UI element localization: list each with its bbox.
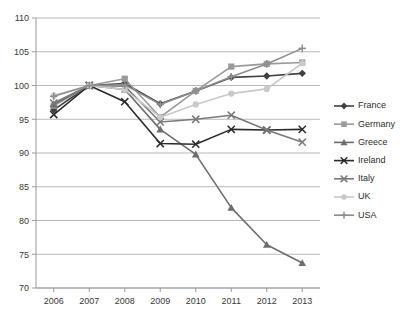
legend-item-uk[interactable]: UK: [334, 191, 371, 201]
series-greece: [50, 82, 306, 266]
marker-circle: [264, 86, 270, 92]
legend-label: Greece: [358, 137, 388, 147]
x-tick-label: 2011: [222, 296, 241, 306]
legend-label: USA: [358, 210, 377, 220]
legend-label: Italy: [358, 173, 375, 183]
marker-circle: [157, 114, 163, 120]
y-tick-label: 80: [19, 216, 29, 226]
series-group: [50, 45, 306, 266]
legend-label: France: [358, 100, 386, 110]
marker-plus: [341, 212, 348, 219]
legend-label: Germany: [358, 119, 396, 129]
marker-diamond: [299, 70, 306, 77]
y-tick-label: 95: [19, 115, 29, 125]
series-line: [54, 86, 303, 143]
y-tick-label: 85: [19, 182, 29, 192]
y-tick-label: 75: [19, 250, 29, 260]
marker-circle: [299, 60, 305, 66]
x-axis-group: 20062007200820092010201120122013: [36, 288, 320, 306]
y-axis-group: 707580859095100105110: [14, 13, 36, 293]
marker-square: [122, 76, 128, 82]
chart-canvas: 707580859095100105110 200620072008200920…: [0, 0, 410, 321]
y-tick-label: 105: [14, 47, 29, 57]
x-tick-label: 2010: [186, 296, 206, 306]
legend-label: Ireland: [358, 155, 386, 165]
x-tick-label: 2006: [44, 296, 64, 306]
marker-cross: [121, 98, 128, 105]
marker-diamond: [263, 72, 270, 79]
legend-item-italy[interactable]: Italy: [334, 173, 375, 183]
x-tick-label: 2007: [79, 296, 99, 306]
legend-item-france[interactable]: France: [334, 100, 386, 110]
series-line: [54, 86, 303, 264]
marker-diamond: [341, 103, 348, 110]
legend-item-ireland[interactable]: Ireland: [334, 155, 386, 165]
series-uk: [51, 60, 306, 120]
y-tick-label: 70: [19, 283, 29, 293]
marker-circle: [228, 91, 234, 97]
marker-circle: [193, 101, 199, 107]
x-tick-label: 2012: [257, 296, 277, 306]
marker-triangle: [298, 259, 306, 266]
marker-cross: [299, 139, 306, 146]
series-line: [54, 86, 303, 145]
marker-square: [228, 64, 234, 70]
y-tick-label: 110: [15, 13, 29, 23]
marker-plus: [227, 73, 235, 81]
chart-legend: FranceGermanyGreeceIrelandItalyUKUSA: [334, 100, 396, 219]
x-tick-label: 2009: [150, 296, 170, 306]
marker-plus: [298, 45, 306, 53]
marker-plus: [50, 93, 58, 101]
marker-circle: [341, 194, 347, 200]
legend-item-germany[interactable]: Germany: [334, 119, 396, 129]
marker-square: [341, 121, 347, 127]
y-tick-label: 90: [19, 148, 29, 158]
x-tick-label: 2008: [115, 296, 135, 306]
legend-item-greece[interactable]: Greece: [334, 137, 388, 147]
legend-item-usa[interactable]: USA: [334, 210, 377, 220]
legend-label: UK: [358, 191, 371, 201]
x-tick-label: 2013: [292, 296, 312, 306]
y-tick-label: 100: [14, 81, 29, 91]
line-chart: 707580859095100105110 200620072008200920…: [0, 0, 410, 321]
